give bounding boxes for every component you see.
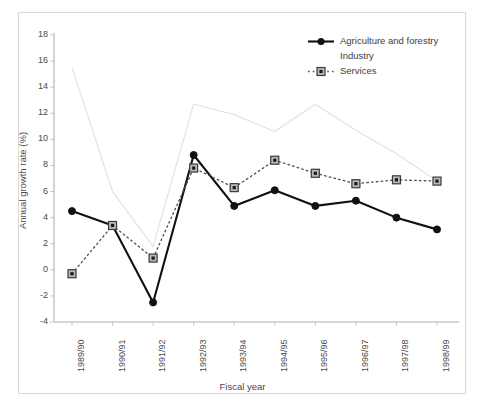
data-point-marker	[69, 208, 76, 215]
legend-item-label: Agriculture and forestry	[340, 34, 438, 47]
chart-legend: Agriculture and forestryIndustryServices	[306, 33, 476, 78]
data-point-marker	[150, 299, 157, 306]
x-tick-label: 1993/94	[238, 339, 248, 372]
chart-figure: 181614121086420-2-4 Annual growth rate (…	[0, 0, 485, 407]
data-point-marker	[392, 176, 400, 184]
x-tick-label: 1997/98	[400, 339, 410, 372]
x-axis-title: Fiscal year	[0, 381, 485, 392]
data-point-marker	[312, 202, 319, 209]
data-point-marker	[434, 226, 441, 233]
series-line-1	[72, 68, 437, 247]
data-point-marker	[393, 214, 400, 221]
legend-item-label: Services	[340, 64, 376, 77]
x-tick-label: 1991/92	[157, 339, 167, 372]
x-tick-label: 1998/99	[441, 339, 451, 372]
data-point-marker	[190, 164, 198, 172]
legend-key-icon	[306, 64, 336, 77]
data-point-marker	[149, 254, 157, 262]
legend-item-2[interactable]: Services	[306, 63, 476, 78]
data-point-marker	[433, 177, 441, 185]
data-point-marker	[109, 221, 117, 229]
x-tick-label: 1992/93	[198, 339, 208, 372]
data-point-marker	[271, 156, 279, 164]
legend-item-1[interactable]: Industry	[306, 48, 476, 63]
data-point-marker	[311, 169, 319, 177]
data-point-marker	[231, 202, 238, 209]
series-line-0	[72, 155, 437, 302]
data-point-marker	[68, 270, 76, 278]
series-line-2	[72, 160, 437, 273]
data-point-marker	[271, 187, 278, 194]
x-tick-label: 1989/90	[76, 339, 86, 372]
data-point-marker	[230, 184, 238, 192]
x-tick-label: 1990/91	[117, 339, 127, 372]
data-point-marker	[352, 197, 359, 204]
legend-key-icon	[306, 34, 336, 47]
data-point-marker	[352, 180, 360, 188]
data-point-marker	[190, 152, 197, 159]
x-tick-label: 1995/96	[319, 339, 329, 372]
x-tick-label: 1996/97	[360, 339, 370, 372]
legend-key-icon	[306, 49, 336, 62]
legend-item-label: Industry	[340, 49, 374, 62]
legend-item-0[interactable]: Agriculture and forestry	[306, 33, 476, 48]
x-tick-label: 1994/95	[279, 339, 289, 372]
